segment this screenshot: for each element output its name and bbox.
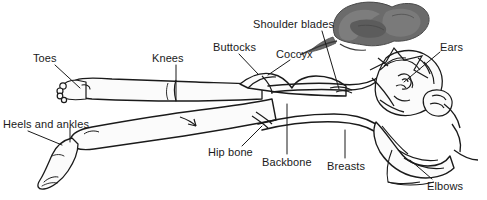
upper-foot-toes [57,80,90,103]
label-toes: Toes [33,52,57,64]
label-ears: Ears [440,41,463,53]
label-breasts: Breasts [327,160,365,172]
label-heels-and-ankles: Heels and ankles [3,118,89,130]
leader-line-heels-and-ankles [28,131,62,145]
label-shoulder-blades: Shoulder blades [253,18,334,30]
hands-near-face [423,90,452,116]
label-buttocks: Buttocks [213,41,256,53]
label-knees: Knees [152,52,184,64]
label-hip-bone: Hip bone [208,146,253,158]
leader-line-hip-bone [242,126,262,146]
label-elbows: Elbows [427,180,463,192]
label-backbone: Backbone [262,156,312,168]
lower-foot-heel [38,138,78,189]
side-lying-body-illustration [0,0,487,200]
leader-line-buttocks [239,54,258,74]
label-coccyx: Coccyx [276,48,313,60]
leader-line-coccyx [268,60,290,75]
lower-leg-outline [70,99,276,150]
anatomy-figure: ToesKneesButtocksCoccyxShoulder bladesEa… [0,0,487,200]
